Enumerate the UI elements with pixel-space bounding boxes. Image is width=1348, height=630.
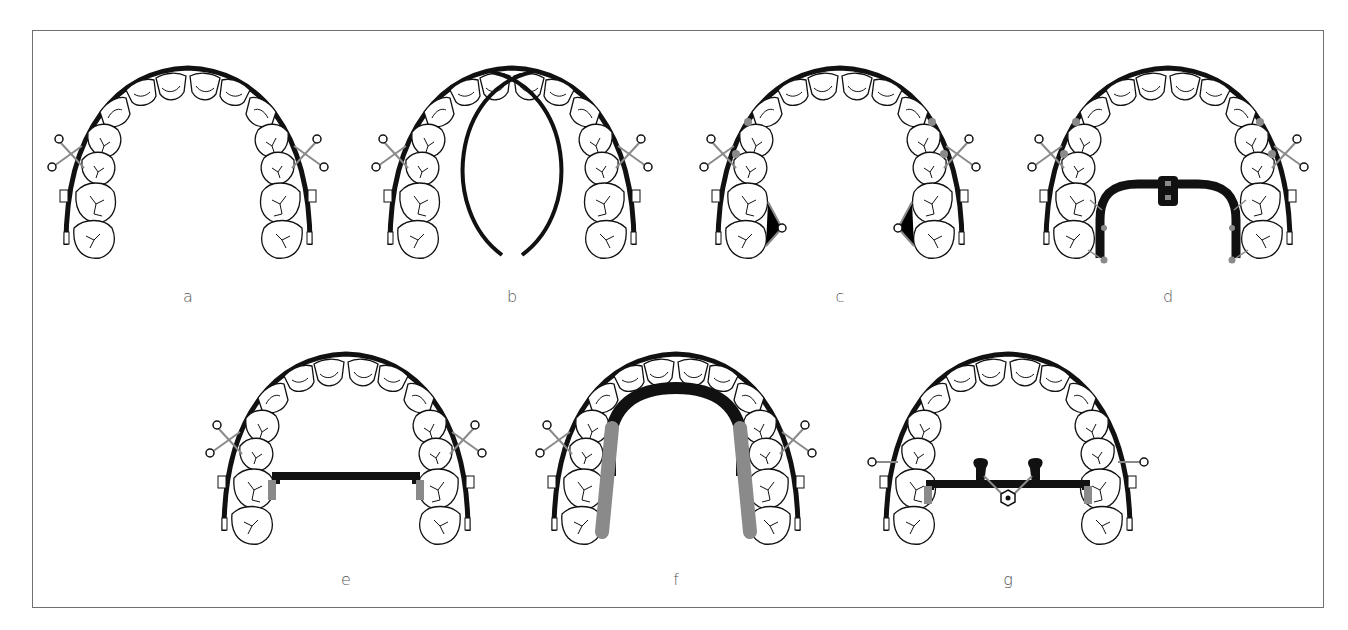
dental-arch-diagram xyxy=(1018,50,1318,280)
panel-label-c: c xyxy=(690,287,990,306)
panel-label-d: d xyxy=(1018,287,1318,306)
panel-b xyxy=(362,50,662,320)
dental-arch-diagram xyxy=(858,336,1158,566)
dental-arch-diagram xyxy=(526,336,826,566)
dental-arch-diagram xyxy=(38,50,338,280)
panel-g xyxy=(858,336,1158,606)
dental-arch-diagram xyxy=(690,50,990,280)
panel-f xyxy=(526,336,826,606)
panel-label-g: g xyxy=(858,570,1158,589)
panel-a xyxy=(38,50,338,320)
panel-d xyxy=(1018,50,1318,320)
panel-label-f: f xyxy=(526,570,826,589)
dental-arch-diagram xyxy=(362,50,662,280)
dental-arch-diagram xyxy=(196,336,496,566)
panel-c xyxy=(690,50,990,320)
panel-label-e: e xyxy=(196,570,496,589)
panel-e xyxy=(196,336,496,606)
panel-label-a: a xyxy=(38,287,338,306)
panel-label-b: b xyxy=(362,287,662,306)
